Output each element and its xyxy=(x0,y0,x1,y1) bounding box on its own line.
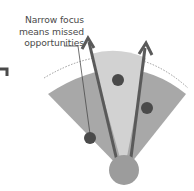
focus-diagram xyxy=(0,0,194,191)
focused-opportunity-dot xyxy=(112,74,124,86)
missed-opportunity-right-dot xyxy=(141,102,153,114)
cropped-arrow-icon xyxy=(0,69,7,76)
origin-circle xyxy=(109,155,139,185)
